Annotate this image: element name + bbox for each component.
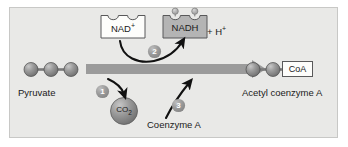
acetyl-coa-label: Acetyl coenzyme A [242, 88, 322, 98]
nad-plus-charge: + [131, 22, 135, 29]
co2-subscript: 2 [128, 109, 132, 116]
co2-label: CO2 [111, 105, 137, 116]
pyruvate-label: Pyruvate [18, 88, 56, 98]
nadh-label-group: NADH [163, 14, 207, 38]
pyruvate-oxidation-diagram: NAD+ NADH + H+ Pyruvate CoA Acetyl coenz… [0, 0, 348, 147]
main-reaction-arrow [86, 60, 266, 78]
pyruvate-molecule [24, 63, 78, 77]
nadh-label: NADH [163, 22, 207, 33]
step-badge-1-number: 1 [96, 85, 109, 98]
step-badge-2-number: 2 [148, 45, 161, 58]
co2-release-curved-arrow [108, 79, 124, 94]
acetyl-coa-molecule [246, 63, 284, 77]
proton-charge: + [222, 25, 226, 32]
nad-plus-label-group: NAD+ [101, 14, 145, 38]
coa-group-label: CoA [282, 61, 313, 77]
coenzyme-a-label: Coenzyme A [147, 120, 201, 130]
step-badge-3-number: 3 [172, 99, 185, 112]
nad-plus-label: NAD+ [101, 22, 145, 34]
proton-label: + H+ [207, 25, 226, 37]
